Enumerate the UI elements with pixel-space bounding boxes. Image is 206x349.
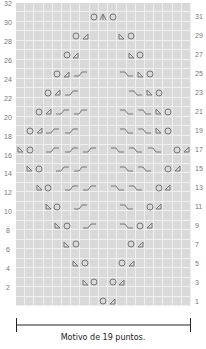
grid-cell [53, 287, 62, 296]
grid-cell [127, 278, 136, 287]
grid-cell [154, 117, 163, 126]
grid-cell [80, 88, 89, 97]
grid-cell [163, 41, 172, 50]
grid-cell [16, 287, 25, 296]
grid-cell [62, 211, 71, 220]
yarn-over-icon [62, 50, 71, 59]
grid-cell [163, 240, 172, 249]
grid-cell [99, 202, 108, 211]
ssk-icon [44, 202, 53, 211]
grid-cell [117, 192, 126, 201]
k2tog-icon [44, 107, 53, 116]
grid-cell [163, 69, 172, 78]
grid-cell [182, 259, 191, 268]
k2tog-icon [173, 164, 182, 173]
grid-cell [163, 202, 172, 211]
grid-cell [62, 12, 71, 21]
cable-right-icon [117, 69, 135, 78]
row-number-label: 27 [195, 50, 205, 59]
grid-cell [145, 240, 154, 249]
grid-cell [44, 278, 53, 287]
k2tog-icon [182, 145, 191, 154]
yarn-over-icon [117, 259, 126, 268]
grid-cell [163, 230, 172, 239]
grid-cell [90, 126, 99, 135]
row-number-label: 17 [195, 145, 205, 154]
grid-cell [99, 183, 108, 192]
yarn-over-icon [108, 12, 117, 21]
grid-cell [34, 211, 43, 220]
yarn-over-icon [163, 107, 172, 116]
grid-cell [53, 117, 62, 126]
grid-cell [127, 98, 136, 107]
k2tog-icon [117, 278, 126, 287]
grid-cell [53, 240, 62, 249]
grid-cell [136, 287, 145, 296]
grid-cell [173, 240, 182, 249]
grid-cell [16, 79, 25, 88]
grid-cell [154, 50, 163, 59]
grid-cell [34, 202, 43, 211]
grid-cell [44, 211, 53, 220]
ssk-icon [80, 278, 89, 287]
grid-cell [163, 287, 172, 296]
grid-cell [182, 31, 191, 40]
grid-cell [117, 41, 126, 50]
grid-cell [182, 117, 191, 126]
row-number-label: 4 [2, 264, 14, 273]
grid-cell [145, 173, 154, 182]
grid-cell [71, 297, 80, 306]
grid-cell [34, 69, 43, 78]
grid-cell [99, 98, 108, 107]
grid-cell [136, 12, 145, 21]
grid-cell [154, 79, 163, 88]
yarn-over-icon [25, 145, 34, 154]
grid-cell [16, 22, 25, 31]
cable-left-icon [53, 164, 71, 173]
grid-cell [71, 287, 80, 296]
grid-cell [163, 192, 172, 201]
grid-cell [53, 297, 62, 306]
grid-cell [62, 259, 71, 268]
row-number-label: 24 [2, 75, 14, 84]
grid-cell [127, 136, 136, 145]
row-number-label: 22 [2, 94, 14, 103]
grid-cell [173, 230, 182, 239]
grid-cell [25, 88, 34, 97]
grid-cell [182, 221, 191, 230]
grid-cell [44, 50, 53, 59]
grid-cell [154, 297, 163, 306]
grid-cell [62, 192, 71, 201]
grid-cell [25, 60, 34, 69]
grid-cell [145, 297, 154, 306]
grid-cell [173, 268, 182, 277]
yarn-over-icon [25, 126, 34, 135]
ssk-icon [154, 107, 163, 116]
cable-right-icon [117, 202, 135, 211]
grid-cell [136, 155, 145, 164]
grid-cell [173, 259, 182, 268]
grid-cell [154, 155, 163, 164]
grid-cell [80, 12, 89, 21]
grid-cell [25, 50, 34, 59]
grid-cell [173, 297, 182, 306]
grid-cell [53, 41, 62, 50]
grid-cell [154, 192, 163, 201]
grid-cell [173, 173, 182, 182]
grid-cell [117, 50, 126, 59]
grid-cell [62, 31, 71, 40]
grid-cell [108, 3, 117, 12]
cable-right-icon [117, 126, 135, 135]
grid-cell [16, 12, 25, 21]
row-number-label: 28 [2, 37, 14, 46]
grid-cell [127, 173, 136, 182]
yarn-over-icon [71, 31, 80, 40]
grid-cell [34, 230, 43, 239]
grid-cell [62, 249, 71, 258]
grid-cell [62, 297, 71, 306]
grid-cell [182, 136, 191, 145]
grid-cell [62, 60, 71, 69]
grid-cell [62, 230, 71, 239]
grid-cell [90, 287, 99, 296]
grid-cell [127, 12, 136, 21]
